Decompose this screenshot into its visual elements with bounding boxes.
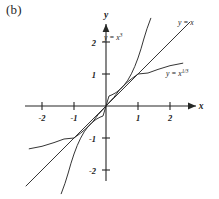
x-axis-arrow-icon bbox=[188, 103, 196, 110]
curve-label-cube-root-text: y = x bbox=[165, 69, 182, 78]
curve-label-identity: y = x bbox=[177, 18, 194, 27]
x-tick-label-1: 1 bbox=[136, 113, 140, 123]
x-tick-label--2: -2 bbox=[38, 113, 46, 123]
y-axis-arrow-icon bbox=[103, 24, 110, 32]
y-tick-label--1: -1 bbox=[89, 134, 96, 144]
graph-plot: -2 -1 1 2 2 1 -1 -2 x y y = x3 y = x y =… bbox=[0, 0, 219, 199]
y-tick-label--2: -2 bbox=[89, 166, 97, 176]
curve-label-cube-root: y = x1/3 bbox=[165, 68, 189, 78]
curve-label-cubic-exponent: 3 bbox=[119, 32, 123, 38]
figure-container: (b) -2 -1 1 2 2 1 -1 -2 x y bbox=[0, 0, 219, 199]
x-tick-label-2: 2 bbox=[167, 113, 173, 123]
x-axis-label: x bbox=[198, 101, 204, 111]
y-axis-label: y bbox=[103, 10, 109, 20]
curve-label-cube-root-exponent: 1/3 bbox=[182, 68, 189, 74]
y-tick-label-1: 1 bbox=[92, 70, 96, 80]
x-tick-label--1: -1 bbox=[70, 113, 77, 123]
curve-label-cubic-text: y = x bbox=[103, 33, 120, 42]
y-tick-label-2: 2 bbox=[91, 38, 97, 48]
curve-label-cubic: y = x3 bbox=[103, 32, 123, 42]
